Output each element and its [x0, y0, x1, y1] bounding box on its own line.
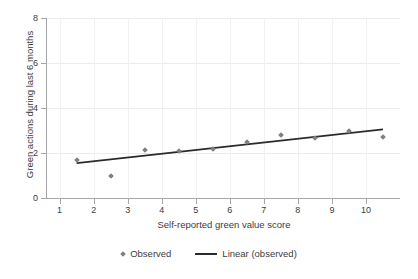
chart-legend: ObservedLinear (observed): [0, 248, 418, 259]
y-tick-mark: [41, 63, 46, 64]
y-tick-label: 6: [20, 59, 38, 67]
legend-label: Observed: [130, 248, 171, 259]
x-tick-label: 2: [82, 206, 106, 215]
x-tick-label: 6: [218, 206, 242, 215]
legend-line-icon: [195, 253, 217, 255]
plot-area: [46, 18, 400, 198]
x-tick-mark: [264, 199, 265, 204]
x-tick-label: 7: [252, 206, 276, 215]
legend-item: Observed: [121, 248, 171, 259]
x-tick-mark: [196, 199, 197, 204]
y-axis-line: [46, 18, 47, 199]
x-tick-label: 5: [184, 206, 208, 215]
y-tick-label: 8: [20, 14, 38, 22]
x-tick-label: 10: [354, 206, 378, 215]
y-tick-label: 2: [20, 149, 38, 157]
y-tick-mark: [41, 18, 46, 19]
x-tick-mark: [366, 199, 367, 204]
x-tick-label: 8: [286, 206, 310, 215]
legend-item: Linear (observed): [195, 248, 296, 259]
y-tick-label: 4: [20, 104, 38, 112]
y-tick-mark: [41, 108, 46, 109]
x-tick-label: 4: [150, 206, 174, 215]
y-tick-mark: [41, 198, 46, 199]
x-tick-mark: [162, 199, 163, 204]
trend-line: [46, 18, 400, 198]
legend-label: Linear (observed): [222, 248, 296, 259]
x-tick-mark: [230, 199, 231, 204]
x-tick-mark: [128, 199, 129, 204]
x-axis-line: [46, 198, 400, 199]
x-tick-mark: [60, 199, 61, 204]
y-tick-mark: [41, 153, 46, 154]
x-tick-mark: [298, 199, 299, 204]
x-axis-title: Self-reported green value score: [44, 219, 404, 230]
y-tick-label: 0: [20, 194, 38, 202]
scatter-chart-figure: Green actions during last 6 months Self-…: [0, 0, 418, 279]
x-tick-label: 3: [116, 206, 140, 215]
x-tick-mark: [94, 199, 95, 204]
legend-diamond-icon: [120, 251, 126, 257]
x-tick-mark: [332, 199, 333, 204]
x-tick-label: 1: [48, 206, 72, 215]
x-tick-label: 9: [320, 206, 344, 215]
